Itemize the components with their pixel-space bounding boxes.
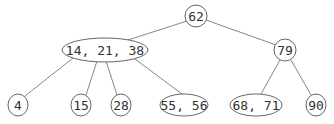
tree-node-n28: 28 <box>111 94 131 116</box>
tree-node-n14_21_38: 14, 21, 38 <box>62 38 148 62</box>
tree-node-n62: 62 <box>185 5 207 27</box>
tree-edges <box>25 20 311 96</box>
node-label: 15 <box>73 98 89 113</box>
edge-n62-n79 <box>206 20 276 45</box>
edge-n14_21_38-n4 <box>25 58 73 96</box>
edge-n79-n90 <box>291 60 311 95</box>
tree-node-n68_71: 68, 71 <box>230 94 282 116</box>
node-label: 28 <box>113 98 129 113</box>
edge-n14_21_38-n55_56 <box>135 59 182 94</box>
tree-node-n79: 79 <box>274 39 296 61</box>
tree-node-n4: 4 <box>8 94 28 116</box>
edge-n62-n14_21_38 <box>128 21 187 40</box>
node-label: 90 <box>308 98 324 113</box>
node-label: 55, 56 <box>161 98 208 113</box>
node-label: 4 <box>14 98 22 113</box>
edge-n79-n68_71 <box>261 60 280 94</box>
tree-node-n55_56: 55, 56 <box>160 94 208 116</box>
tree-node-n15: 15 <box>71 94 91 116</box>
node-label: 14, 21, 38 <box>66 43 144 58</box>
node-label: 68, 71 <box>233 98 280 113</box>
node-label: 62 <box>188 9 204 24</box>
tree-node-n90: 90 <box>306 94 326 116</box>
edge-n14_21_38-n28 <box>106 61 117 95</box>
tree-diagram: 6214, 21, 38794152855, 5668, 7190 <box>0 0 334 124</box>
tree-nodes: 6214, 21, 38794152855, 5668, 7190 <box>8 5 326 116</box>
edge-n14_21_38-n15 <box>86 61 97 95</box>
node-label: 79 <box>277 43 293 58</box>
